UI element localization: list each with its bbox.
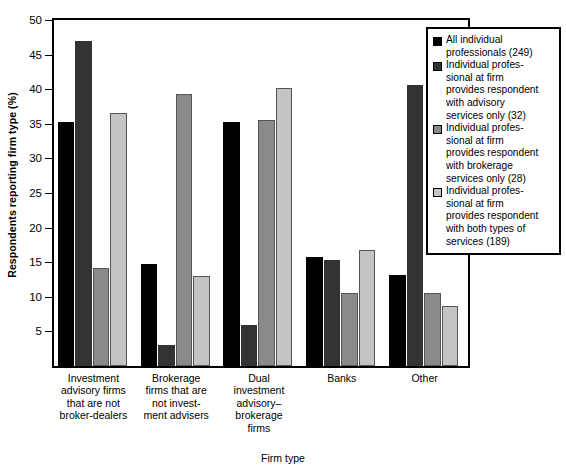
x-axis-tick-labels: Investmentadvisory firmsthat are notbrok… — [52, 372, 470, 452]
y-axis-tick-label: 45 — [10, 49, 42, 61]
y-axis-tick-label: 5 — [10, 325, 42, 337]
y-axis-tick-label: 35 — [10, 118, 42, 130]
y-axis-tick-mark — [45, 20, 54, 21]
bar — [93, 268, 110, 366]
y-axis-tick-mark — [45, 331, 54, 332]
bar — [241, 325, 258, 366]
bar — [359, 250, 376, 366]
legend-item[interactable]: All individual professionals (249) — [433, 34, 555, 59]
y-axis-tick-label: 40 — [10, 83, 42, 95]
legend-swatch-icon — [433, 125, 442, 134]
legend-item-label: Individual profes- sional at firm provid… — [446, 185, 538, 248]
y-axis-tick-mark — [45, 228, 54, 229]
y-axis-tick-label: 10 — [10, 291, 42, 303]
y-axis-tick-label: 30 — [10, 152, 42, 164]
x-axis-title: Firm type — [0, 452, 566, 464]
legend-item[interactable]: Individual profes- sional at firm provid… — [433, 59, 555, 122]
y-axis-tick-mark — [45, 297, 54, 298]
y-axis-tick-mark — [45, 124, 54, 125]
y-axis-tick-mark — [45, 158, 54, 159]
bar-group — [54, 20, 137, 366]
bar — [258, 120, 275, 366]
bar — [223, 122, 240, 366]
plot-inner: 5101520253035404550 — [54, 20, 468, 366]
y-axis-tick-mark — [45, 193, 54, 194]
y-axis-tick-mark — [45, 55, 54, 56]
x-axis-tick-label-line: firms — [210, 422, 309, 434]
legend-item-label: Individual profes- sional at firm provid… — [446, 59, 538, 122]
x-axis-tick-label: Other — [375, 372, 474, 384]
bar — [141, 264, 158, 366]
y-axis-tick-mark — [45, 89, 54, 90]
x-axis-tick-label-line: brokerage — [210, 409, 309, 421]
bar-chart-figure: Respondents reporting firm type (%) 5101… — [0, 0, 566, 470]
legend-item[interactable]: Individual profes- sional at firm provid… — [433, 185, 555, 248]
x-axis-tick-label-line: advisory– — [210, 397, 309, 409]
bar-group — [302, 20, 385, 366]
bar — [324, 260, 341, 366]
plot-area: 5101520253035404550 — [52, 18, 470, 368]
y-axis-tick-mark — [45, 262, 54, 263]
bar — [276, 88, 293, 366]
legend-swatch-icon — [433, 188, 442, 197]
bar — [158, 345, 175, 366]
bar-group — [137, 20, 220, 366]
bar — [75, 41, 92, 366]
y-axis-tick-label: 20 — [10, 222, 42, 234]
y-axis-tick-label: 15 — [10, 256, 42, 268]
bar — [442, 306, 459, 366]
y-axis-tick-label: 50 — [10, 14, 42, 26]
legend-swatch-icon — [433, 37, 442, 46]
bar — [58, 122, 75, 366]
bar — [424, 293, 441, 366]
x-axis-title-text: Firm type — [261, 452, 305, 464]
chart-legend: All individual professionals (249)Indivi… — [426, 27, 561, 255]
legend-item[interactable]: Individual profes- sional at firm provid… — [433, 122, 555, 185]
legend-swatch-icon — [433, 62, 442, 71]
bar — [306, 257, 323, 366]
legend-item-label: All individual professionals (249) — [446, 34, 533, 59]
legend-item-label: Individual profes- sional at firm provid… — [446, 122, 538, 185]
bar — [389, 275, 406, 366]
bar-group — [220, 20, 303, 366]
bar — [110, 113, 127, 366]
y-axis-tick-label: 25 — [10, 187, 42, 199]
bar — [341, 293, 358, 366]
x-axis-tick-label-line: Other — [375, 372, 474, 384]
bar — [407, 85, 424, 366]
x-axis-tick-label-line: investment — [210, 384, 309, 396]
bar — [193, 276, 210, 366]
bar — [176, 94, 193, 366]
